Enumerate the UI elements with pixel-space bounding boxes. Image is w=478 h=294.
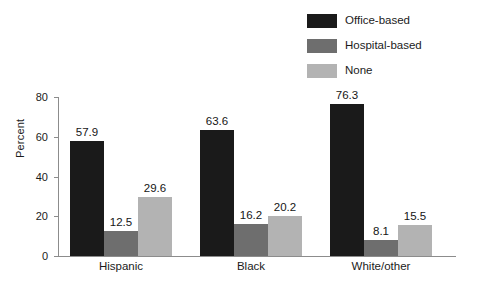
chart-legend: Office-based Hospital-based None [307, 12, 472, 87]
bar-group: 63.616.220.2Black [200, 97, 302, 256]
bar[interactable] [104, 231, 138, 256]
y-tick-mark: 80 [54, 97, 58, 98]
bar-group-bars: 63.616.220.2 [200, 97, 302, 256]
y-tick-label: 80 [36, 91, 48, 103]
legend-label-none: None [345, 64, 373, 77]
bar-value-label: 20.2 [274, 201, 296, 213]
bar-column[interactable]: 15.5 [398, 97, 432, 256]
legend-item-hospital-based: Hospital-based [307, 37, 472, 54]
x-axis-category-label: Hispanic [99, 260, 143, 272]
legend-swatch-none [307, 64, 337, 78]
bar[interactable] [268, 216, 302, 256]
bar-group: 57.912.529.6Hispanic [70, 97, 172, 256]
legend-swatch-office-based [307, 14, 337, 28]
bar[interactable] [330, 104, 364, 256]
bar-group-bars: 57.912.529.6 [70, 97, 172, 256]
y-tick-mark: 40 [54, 177, 58, 178]
y-axis-line [58, 97, 59, 257]
legend-swatch-hospital-based [307, 39, 337, 53]
x-axis-category-label: White/other [352, 260, 411, 272]
bar-column[interactable]: 63.6 [200, 97, 234, 256]
bar-column[interactable]: 16.2 [234, 97, 268, 256]
bar-column[interactable]: 12.5 [104, 97, 138, 256]
bar-value-label: 12.5 [110, 216, 132, 228]
x-axis-category-label: Black [237, 260, 265, 272]
legend-item-none: None [307, 62, 472, 79]
y-tick-mark: 0 [54, 256, 58, 257]
x-axis-line [58, 256, 456, 257]
y-tick-label: 20 [36, 210, 48, 222]
plot-area: 020406080 57.912.529.6Hispanic63.616.220… [58, 97, 456, 257]
bar-value-label: 29.6 [144, 182, 166, 194]
bar-group-bars: 76.38.115.5 [330, 97, 432, 256]
bar-group: 76.38.115.5White/other [330, 97, 432, 256]
bar-column[interactable]: 8.1 [364, 97, 398, 256]
bar-column[interactable]: 20.2 [268, 97, 302, 256]
bar-value-label: 16.2 [240, 209, 262, 221]
bar-value-label: 57.9 [76, 126, 98, 138]
bar-column[interactable]: 29.6 [138, 97, 172, 256]
bar[interactable] [234, 224, 268, 256]
bar[interactable] [70, 141, 104, 256]
y-tick-label: 0 [42, 250, 48, 262]
bar-value-label: 63.6 [206, 115, 228, 127]
y-tick-label: 60 [36, 131, 48, 143]
y-axis-title: Percent [14, 119, 26, 158]
bar[interactable] [364, 240, 398, 256]
bar-chart: Office-based Hospital-based None Percent… [0, 0, 478, 294]
bar-column[interactable]: 57.9 [70, 97, 104, 256]
bar-value-label: 15.5 [404, 210, 426, 222]
bar-value-label: 8.1 [373, 225, 389, 237]
legend-label-hospital-based: Hospital-based [345, 39, 422, 52]
bar-value-label: 76.3 [336, 89, 358, 101]
legend-item-office-based: Office-based [307, 12, 472, 29]
bar[interactable] [200, 130, 234, 256]
bar[interactable] [138, 197, 172, 256]
bar[interactable] [398, 225, 432, 256]
legend-label-office-based: Office-based [345, 14, 410, 27]
y-tick-mark: 60 [54, 137, 58, 138]
bar-column[interactable]: 76.3 [330, 97, 364, 256]
y-tick-mark: 20 [54, 216, 58, 217]
y-tick-label: 40 [36, 171, 48, 183]
